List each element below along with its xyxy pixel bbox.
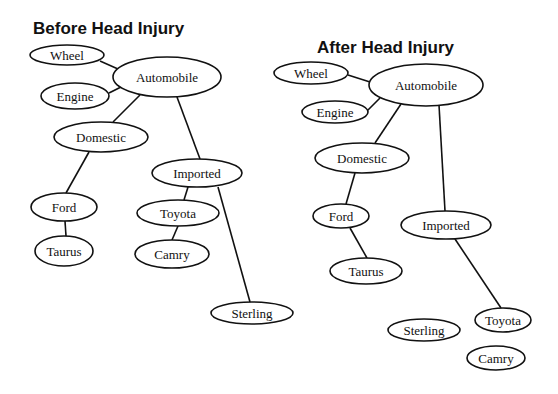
node-label: Automobile bbox=[136, 70, 198, 85]
before-head-injury-node-ford: Ford bbox=[31, 193, 97, 221]
before-head-injury-edge-imported-sterling bbox=[218, 187, 250, 302]
node-label: Automobile bbox=[395, 78, 457, 93]
before-head-injury-node-imported: Imported bbox=[152, 159, 242, 187]
before-head-injury-node-engine: Engine bbox=[41, 83, 109, 109]
after-head-injury-node-sterling: Sterling bbox=[388, 319, 460, 341]
node-label: Domestic bbox=[337, 151, 387, 166]
nodes-layer: WheelAutomobileEngineDomesticImportedFor… bbox=[30, 45, 531, 370]
before-head-injury-node-wheel: Wheel bbox=[30, 45, 104, 65]
node-label: Taurus bbox=[46, 244, 81, 259]
before-head-injury-edge-automobile-domestic bbox=[113, 95, 140, 122]
after-head-injury-node-engine: Engine bbox=[302, 101, 368, 123]
before-head-injury-node-taurus: Taurus bbox=[35, 236, 93, 266]
after-head-injury-title: After Head Injury bbox=[317, 38, 455, 57]
node-label: Toyota bbox=[485, 313, 521, 328]
after-head-injury-edge-automobile-domestic bbox=[375, 104, 401, 143]
node-label: Engine bbox=[57, 89, 94, 104]
after-head-injury-edge-domestic-ford bbox=[346, 173, 355, 204]
before-head-injury-node-camry: Camry bbox=[135, 240, 209, 268]
node-label: Ford bbox=[329, 209, 354, 224]
after-head-injury-node-wheel: Wheel bbox=[274, 62, 348, 84]
node-label: Wheel bbox=[50, 48, 84, 63]
before-head-injury-title: Before Head Injury bbox=[33, 19, 185, 38]
after-head-injury-edge-automobile-imported bbox=[439, 105, 445, 211]
node-label: Camry bbox=[478, 351, 514, 366]
before-head-injury-edge-wheel-automobile bbox=[100, 61, 118, 69]
before-head-injury-edge-toyota-camry bbox=[172, 226, 178, 240]
after-head-injury-node-domestic: Domestic bbox=[315, 143, 409, 173]
node-label: Imported bbox=[422, 218, 470, 233]
node-label: Domestic bbox=[76, 130, 126, 145]
node-label: Toyota bbox=[160, 206, 196, 221]
after-head-injury-node-toyota: Toyota bbox=[475, 308, 531, 332]
node-label: Sterling bbox=[231, 306, 273, 321]
after-head-injury-node-automobile: Automobile bbox=[369, 64, 483, 106]
before-head-injury-edge-automobile-imported bbox=[177, 97, 200, 159]
after-head-injury-node-camry: Camry bbox=[467, 346, 525, 370]
before-head-injury-node-toyota: Toyota bbox=[137, 200, 219, 226]
before-head-injury-edge-domestic-ford bbox=[66, 152, 89, 193]
after-head-injury-node-ford: Ford bbox=[313, 204, 369, 228]
node-label: Camry bbox=[154, 247, 190, 262]
before-head-injury-node-domestic: Domestic bbox=[54, 122, 148, 152]
semantic-network-diagram: WheelAutomobileEngineDomesticImportedFor… bbox=[0, 0, 558, 394]
after-head-injury-edge-ford-taurus bbox=[350, 228, 367, 258]
node-label: Ford bbox=[52, 200, 77, 215]
after-head-injury-edge-wheel-automobile bbox=[348, 75, 370, 82]
before-head-injury-edge-ford-taurus bbox=[65, 221, 66, 236]
node-label: Sterling bbox=[403, 323, 445, 338]
before-head-injury-edge-imported-toyota bbox=[184, 187, 188, 200]
node-label: Wheel bbox=[294, 66, 328, 81]
before-head-injury-edge-engine-automobile bbox=[109, 87, 121, 93]
node-label: Engine bbox=[317, 105, 354, 120]
before-head-injury-node-sterling: Sterling bbox=[211, 302, 293, 324]
node-label: Taurus bbox=[348, 264, 383, 279]
after-head-injury-node-imported: Imported bbox=[401, 211, 491, 239]
before-head-injury-node-automobile: Automobile bbox=[113, 57, 221, 97]
node-label: Imported bbox=[173, 166, 221, 181]
after-head-injury-node-taurus: Taurus bbox=[330, 258, 402, 284]
after-head-injury-edge-imported-toyota bbox=[455, 239, 501, 308]
after-head-injury-edge-engine-automobile bbox=[368, 98, 380, 110]
